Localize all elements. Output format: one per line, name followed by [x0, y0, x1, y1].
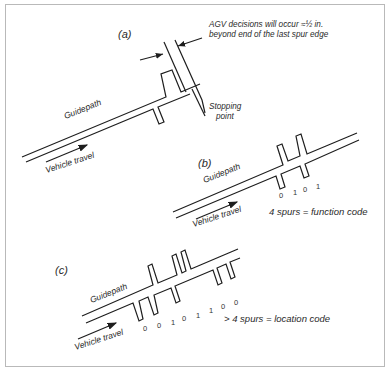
panel-b-label: (b): [198, 158, 211, 169]
decision-annotation-line2: beyond end of the last spur edge: [209, 31, 328, 39]
panel-c-bit: 0: [143, 325, 147, 333]
panel-b-bit: 1: [316, 183, 320, 191]
panel-c-bit: 0: [157, 322, 161, 330]
panel-a-label: (a): [118, 29, 131, 40]
location-code-caption: > 4 spurs = location code: [224, 314, 330, 324]
decision-annotation-line1: AGV decisions will occur ≈½ in.: [209, 21, 323, 29]
panel-c-bit: 1: [171, 319, 175, 327]
panel-a-guidepath: [22, 38, 205, 162]
panel-c-bit: 0: [234, 299, 238, 307]
function-code-caption: 4 spurs = function code: [269, 207, 368, 217]
panel-b-bit: 1: [293, 189, 297, 197]
panel-c-bit: 1: [209, 307, 213, 315]
stopping-point-line2: point: [216, 113, 234, 121]
panel-c-bit: 0: [221, 303, 225, 311]
panel-c-label: (c): [55, 265, 68, 276]
panel-c-bit: 0: [182, 315, 186, 323]
panel-b-bit: 0: [303, 186, 307, 194]
stopping-point-line1: Stopping: [209, 103, 241, 111]
panel-b-bit: 0: [279, 192, 283, 200]
panel-c-bit: 1: [196, 312, 200, 320]
